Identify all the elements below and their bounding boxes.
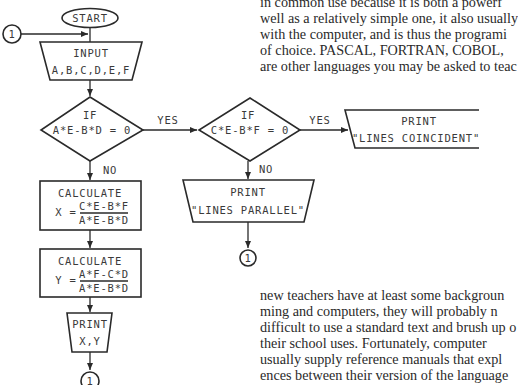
svg-text:PRINT: PRINT: [72, 318, 108, 330]
svg-text:1: 1: [8, 28, 15, 40]
svg-text:A,B,C,D,E,F: A,B,C,D,E,F: [52, 64, 130, 76]
svg-text:"LINES PARALLEL": "LINES PARALLEL": [191, 204, 305, 216]
svg-text:"LINES COINCIDENT": "LINES COINCIDENT": [352, 132, 479, 144]
no-label: NO: [103, 164, 117, 176]
svg-text:X,Y: X,Y: [79, 335, 100, 347]
svg-text:CALCULATE: CALCULATE: [58, 187, 122, 199]
svg-text:INPUT: INPUT: [73, 47, 109, 59]
connector-1-parallel: 1: [240, 250, 256, 266]
svg-text:A*E-B*D = 0: A*E-B*D = 0: [53, 124, 131, 136]
print-coincident-block: PRINT "LINES COINCIDENT": [345, 110, 479, 148]
calculate-x-block: CALCULATE X = C*E-B*F A*E-B*D: [40, 181, 141, 230]
svg-text:X =: X =: [55, 206, 76, 218]
svg-text:IF: IF: [241, 109, 255, 121]
decision-coincident: IF C*E-B*F = 0: [199, 98, 300, 161]
connector-1-entry: 1: [3, 25, 21, 43]
start-label: START: [72, 12, 108, 24]
print-parallel-block: PRINT "LINES PARALLEL": [183, 180, 314, 222]
input-block: INPUT A,B,C,D,E,F: [40, 42, 142, 80]
yes-label: YES: [309, 114, 330, 126]
svg-text:C*E-B*F: C*E-B*F: [79, 200, 129, 212]
svg-text:PRINT: PRINT: [401, 115, 437, 127]
svg-text:CALCULATE: CALCULATE: [58, 255, 122, 267]
print-xy-block: PRINT X,Y: [67, 313, 112, 352]
no-label: NO: [259, 163, 273, 175]
decision-determinant: IF A*E-B*D = 0: [41, 97, 143, 161]
svg-text:A*E-B*D: A*E-B*D: [79, 282, 129, 294]
svg-text:PRINT: PRINT: [230, 186, 266, 198]
svg-text:Y =: Y =: [55, 274, 76, 286]
start-terminal: START: [62, 9, 118, 28]
svg-text:IF: IF: [83, 109, 97, 121]
svg-text:A*E-B*D: A*E-B*D: [79, 214, 129, 226]
svg-text:1: 1: [244, 252, 251, 264]
yes-label: YES: [157, 114, 178, 126]
svg-text:1: 1: [86, 375, 93, 385]
connector-1-exit: 1: [81, 372, 99, 385]
svg-text:A*F-C*D: A*F-C*D: [79, 268, 129, 280]
calculate-y-block: CALCULATE Y = A*F-C*D A*E-B*D: [40, 249, 141, 297]
svg-text:C*E-B*F = 0: C*E-B*F = 0: [211, 124, 289, 136]
